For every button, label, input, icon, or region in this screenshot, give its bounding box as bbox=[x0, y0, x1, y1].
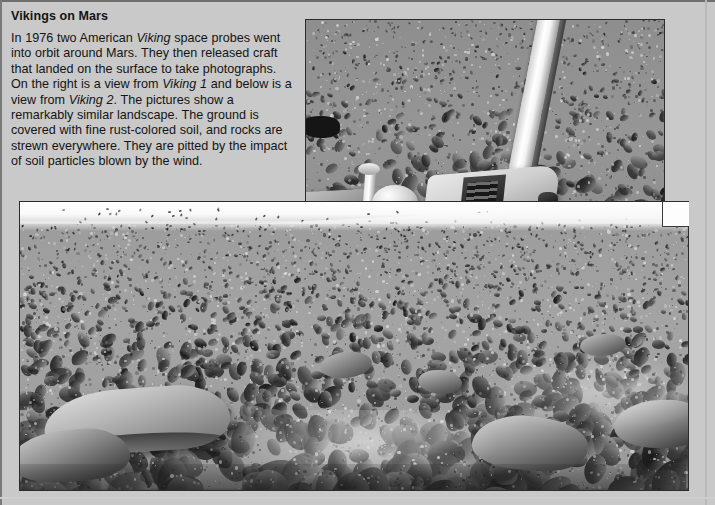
soil-speck bbox=[488, 261, 491, 264]
soil-speck bbox=[40, 286, 43, 289]
soil-speck bbox=[203, 333, 206, 336]
soil-speck bbox=[597, 301, 600, 304]
soil-speck bbox=[386, 283, 387, 284]
soil-speck bbox=[579, 39, 582, 42]
soil-speck bbox=[243, 247, 245, 249]
soil-speck bbox=[335, 87, 338, 90]
soil-speck bbox=[193, 275, 196, 278]
soil-speck bbox=[607, 229, 609, 231]
soil-speck bbox=[563, 329, 566, 332]
soil-speck bbox=[445, 257, 446, 258]
surface-rock bbox=[28, 246, 31, 250]
soil-speck bbox=[401, 112, 403, 114]
soil-speck bbox=[292, 362, 294, 364]
soil-speck bbox=[555, 125, 558, 128]
soil-speck bbox=[598, 55, 601, 58]
soil-speck bbox=[363, 109, 365, 111]
soil-speck bbox=[62, 342, 64, 344]
soil-speck bbox=[420, 75, 423, 78]
soil-speck bbox=[456, 324, 459, 327]
soil-speck bbox=[329, 290, 330, 291]
surface-rock bbox=[685, 299, 688, 306]
soil-speck bbox=[352, 315, 354, 317]
soil-speck bbox=[27, 407, 30, 410]
soil-speck bbox=[170, 264, 173, 267]
soil-speck bbox=[575, 300, 577, 302]
soil-speck bbox=[342, 386, 344, 388]
soil-speck bbox=[596, 315, 597, 316]
soil-speck bbox=[334, 388, 336, 390]
surface-rock bbox=[579, 285, 584, 289]
soil-speck bbox=[673, 341, 675, 343]
soil-speck bbox=[166, 240, 168, 242]
soil-speck bbox=[257, 366, 259, 368]
soil-speck bbox=[549, 305, 552, 308]
soil-speck bbox=[513, 76, 514, 77]
surface-rock bbox=[376, 234, 379, 237]
soil-speck bbox=[660, 109, 663, 112]
soil-speck bbox=[333, 340, 336, 343]
soil-speck bbox=[299, 272, 300, 273]
soil-speck bbox=[481, 137, 484, 140]
soil-speck bbox=[243, 286, 245, 288]
soil-speck bbox=[600, 442, 601, 443]
soil-speck bbox=[332, 287, 335, 290]
surface-rock bbox=[146, 259, 149, 263]
soil-speck bbox=[120, 358, 121, 359]
soil-speck bbox=[348, 378, 350, 380]
soil-speck bbox=[310, 404, 312, 406]
page-title: Vikings on Mars bbox=[11, 9, 293, 23]
soil-speck bbox=[308, 296, 310, 298]
soil-speck bbox=[588, 171, 590, 173]
surface-rock bbox=[581, 102, 586, 106]
dark-rock-foreground bbox=[306, 116, 340, 138]
soil-speck bbox=[147, 297, 150, 300]
soil-speck bbox=[543, 318, 544, 319]
soil-speck bbox=[264, 375, 267, 378]
soil-speck bbox=[254, 322, 255, 323]
soil-speck bbox=[133, 304, 134, 305]
soil-speck bbox=[564, 156, 567, 159]
soil-speck bbox=[431, 291, 433, 293]
surface-rock bbox=[448, 104, 453, 107]
soil-speck bbox=[604, 318, 606, 320]
soil-speck bbox=[492, 87, 495, 90]
soil-speck bbox=[155, 310, 158, 313]
soil-speck bbox=[367, 153, 369, 155]
soil-speck bbox=[232, 398, 234, 400]
soil-speck bbox=[426, 265, 429, 268]
surface-rock bbox=[598, 290, 601, 295]
soil-speck bbox=[168, 267, 171, 270]
soil-speck bbox=[191, 284, 193, 286]
soil-speck bbox=[564, 229, 566, 231]
surface-rock bbox=[637, 234, 639, 237]
soil-speck bbox=[271, 354, 274, 357]
soil-speck bbox=[309, 247, 311, 249]
soil-speck bbox=[467, 51, 470, 54]
soil-speck bbox=[449, 73, 452, 76]
soil-speck bbox=[124, 367, 127, 370]
soil-speck bbox=[444, 91, 446, 93]
soil-speck bbox=[414, 357, 416, 359]
soil-speck bbox=[686, 310, 689, 313]
soil-speck bbox=[520, 251, 522, 253]
soil-speck bbox=[140, 460, 142, 462]
soil-speck bbox=[51, 285, 53, 287]
soil-speck bbox=[618, 458, 621, 461]
soil-speck bbox=[516, 304, 517, 305]
soil-speck bbox=[229, 254, 231, 256]
surface-rock bbox=[363, 54, 366, 58]
surface-rock bbox=[686, 243, 688, 246]
soil-speck bbox=[610, 127, 611, 128]
soil-speck bbox=[37, 234, 39, 236]
soil-speck bbox=[604, 302, 606, 304]
soil-speck bbox=[508, 33, 511, 36]
soil-speck bbox=[113, 376, 115, 378]
soil-speck bbox=[128, 268, 130, 270]
surface-rock bbox=[538, 238, 541, 240]
soil-speck bbox=[68, 386, 71, 389]
soil-speck bbox=[601, 154, 604, 157]
soil-speck bbox=[480, 350, 481, 351]
soil-speck bbox=[591, 435, 594, 438]
soil-speck bbox=[352, 109, 353, 110]
